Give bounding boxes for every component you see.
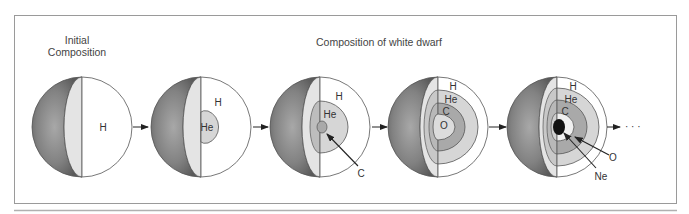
label-Ne: Ne [595, 171, 608, 182]
sphere-stage-2: H He [151, 77, 251, 177]
label-He: He [445, 94, 458, 105]
layer-H [82, 77, 132, 177]
sphere-stage-3: H He C [270, 77, 370, 179]
label-O: O [440, 120, 448, 131]
continuation-ellipsis: · · · [625, 121, 641, 132]
label-He: He [201, 122, 214, 133]
layer-C [317, 121, 327, 133]
label-C: C [357, 168, 364, 179]
label-C: C [442, 106, 449, 117]
label-He: He [324, 109, 337, 120]
label-O: O [609, 152, 617, 163]
label-H: H [99, 122, 106, 133]
label-H: H [214, 97, 221, 108]
white-dwarf-heading: Composition of white dwarf [316, 36, 442, 48]
sphere-stage-5: H He C O Ne [507, 77, 617, 182]
white-dwarf-composition-diagram: Initial Composition Composition of white… [0, 0, 689, 214]
initial-heading-line-2: Composition [48, 46, 107, 58]
label-He: He [565, 94, 578, 105]
initial-heading-line-1: Initial [65, 34, 90, 46]
label-H: H [569, 81, 576, 92]
label-H: H [335, 91, 342, 102]
label-C: C [561, 106, 568, 117]
label-H: H [449, 81, 456, 92]
sphere-stage-4: H He C O [388, 77, 488, 177]
sphere-stage-1: H [32, 77, 132, 177]
layer-Ne [553, 119, 565, 135]
